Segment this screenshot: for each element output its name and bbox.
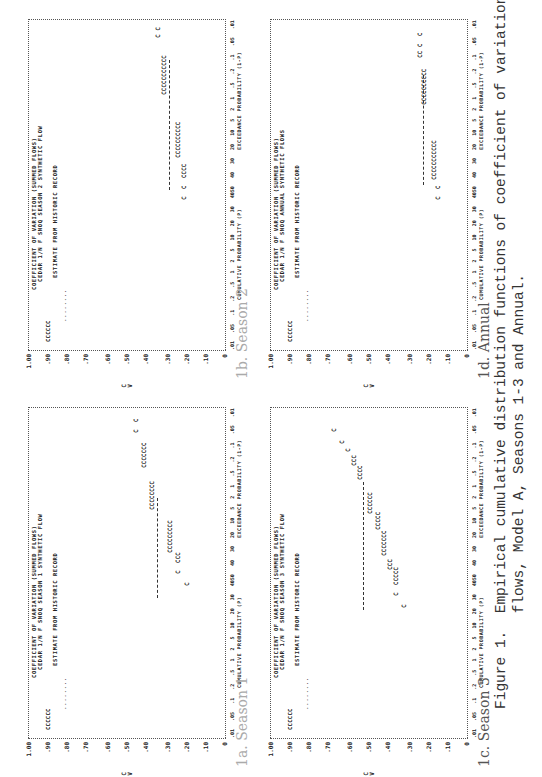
synthetic-symbol: CCCCCC [287,708,293,730]
historic-estimate-line [157,498,158,598]
data-point: CC C C [417,33,423,58]
y-tick: .40 [385,742,391,768]
data-point: CCCCCCCCCCC [431,140,437,180]
plot-area: C V 1.00 .90 .80 .70 .60 .50 .40 .30 .20… [28,407,226,739]
y-tick: .30 [165,742,171,768]
y-tick: .30 [165,354,171,380]
synthetic-symbol: CCCCCC [287,320,293,342]
y-tick: .10 [203,742,209,768]
data-point: CCC [387,559,393,570]
data-point: CCCCCC [367,492,373,514]
panel-1d: C V 1.00 .90 .80 .70 .60 .50 .40 .30 .20… [262,9,492,379]
historic-symbol: ........ [302,677,309,710]
data-point: CCCCCCC [141,443,147,468]
panel-1b: C V 1.00 .90 .80 .70 .60 .50 .40 .30 .20… [20,9,250,379]
y-tick: .30 [407,354,413,380]
data-point: C [331,428,337,432]
y-tick: 1.00 [268,742,274,768]
y-tick: .90 [287,742,293,768]
y-tick: .90 [45,354,51,380]
y-tick: 1.00 [268,354,274,380]
y-tick: 1.00 [26,354,32,380]
y-tick: .20 [426,742,432,768]
historic-symbol: ........ [60,289,67,322]
chart-title-line2: CEDAR 1/N F SNOQ SEASON 3 SYNTHETIC FLOW [279,514,285,670]
synthetic-symbol: CCCCCC [45,320,51,342]
panel-1a: C V 1.00 .90 .80 .70 .60 .50 .40 .30 .20… [20,397,250,767]
data-point: C CCCCC [393,567,399,596]
plot-area: C V 1.00 .90 .80 .70 .60 .50 .40 .30 .20… [270,407,468,739]
x-label-cumulative: CUMULATIVE PROBABILITY (P) [478,597,484,688]
figure-caption: Figure 1. Empirical cumulative distribut… [492,0,528,709]
historic-symbol: ........ [60,677,67,710]
y-tick: 0 [464,742,470,768]
y-tick: .70 [325,742,331,768]
x-label-exceedance: EXCEEDANCE PROBABILITY (1-P) [478,52,484,150]
y-tick: .20 [184,742,190,768]
y-tick: .80 [64,354,70,380]
historic-legend-label: ESTIMATE FROM HISTORIC RECORD [294,553,300,666]
y-tick: 0 [222,742,228,768]
y-tick: .90 [45,742,51,768]
historic-legend-label: ESTIMATE FROM HISTORIC RECORD [52,553,58,666]
x-label-cumulative: CUMULATIVE PROBABILITY (P) [478,209,484,300]
data-point: CCC [351,455,357,466]
data-point: CCCCCCCCC [167,520,173,553]
y-tick: .90 [287,354,293,380]
y-axis-label: C V [121,770,133,777]
panel-1c: C V 1.00 .90 .80 .70 .60 .50 .40 .30 .20… [262,397,492,767]
y-tick: .20 [426,354,432,380]
y-tick: .70 [83,742,89,768]
data-point: C [345,448,351,452]
y-tick: .40 [143,742,149,768]
data-point: C [184,582,190,586]
y-tick: .10 [445,354,451,380]
data-point: CCCCCCC [381,531,387,556]
x-label-cumulative: CUMULATIVE PROBABILITY (P) [236,209,242,300]
y-tick: .40 [385,354,391,380]
caption-line-2: flows, Model A, Seasons 1-3 and Annual. [510,0,528,709]
y-tick: .70 [325,354,331,380]
y-tick: .30 [407,742,413,768]
data-point: C [339,440,345,444]
data-point: C C [155,27,161,38]
panel-label: 1c. Season 3 [476,677,492,767]
y-tick: .10 [203,354,209,380]
historic-legend-label: ESTIMATE FROM HISTORIC RECORD [52,165,58,278]
panel-label: 1a. Season 1 [234,677,250,767]
y-axis-label: C V [121,382,133,390]
data-point: CCCCCCCCCC [421,69,427,105]
y-tick: .50 [124,354,130,380]
data-point: CCCCCCCC [149,481,155,510]
data-point: CCCCCCCCCCC [161,55,167,95]
data-point: C C CCCC [181,164,187,200]
y-tick: 0 [222,354,228,380]
y-tick: 0 [464,354,470,380]
y-tick: .60 [105,742,111,768]
y-tick: .80 [306,742,312,768]
plot-area: C V 1.00 .90 .80 .70 .60 .50 .40 .30 .20… [270,19,468,351]
x-label-exceedance: EXCEEDANCE PROBABILITY (1-P) [236,440,242,538]
historic-estimate-line [363,482,364,610]
y-tick: .80 [306,354,312,380]
data-point: CCCC [357,466,363,480]
historic-estimate-line [169,60,170,190]
rotated-page: C V 1.00 .90 .80 .70 .60 .50 .40 .30 .20… [0,0,542,777]
historic-symbol: ........ [302,289,309,322]
y-tick: .10 [445,742,451,768]
synthetic-symbol: CCCCCC [45,708,51,730]
data-point: C [401,604,407,608]
x-label-exceedance: EXCEEDANCE PROBABILITY (1-P) [236,52,242,150]
historic-legend-label: ESTIMATE FROM HISTORIC RECORD [294,165,300,278]
data-point: C CCC [175,552,181,574]
y-tick: .60 [347,742,353,768]
data-point: C C [435,186,441,200]
y-tick: .70 [83,354,89,380]
panel-label: 1b. Season 2 [234,288,250,379]
data-point: C C [133,419,139,433]
x-label-exceedance: EXCEEDANCE PROBABILITY (1-P) [478,440,484,538]
y-tick: 1.00 [26,742,32,768]
data-point: CCCCCCCCCC [175,122,181,158]
y-tick: .80 [64,742,70,768]
data-point: CCCCC [375,512,381,530]
